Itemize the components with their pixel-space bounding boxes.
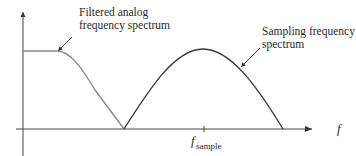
filtered-label-line1: Filtered analog (79, 6, 149, 19)
sampling-label-line2: spectrum (262, 38, 304, 51)
sampling-leader-arrow (241, 48, 260, 67)
x-axis-label: f (337, 121, 343, 136)
sampling-spectrum-curve (124, 49, 283, 129)
spectrum-diagram: Filtered analog frequency spectrum Sampl… (0, 0, 356, 156)
filtered-leader-arrow (58, 37, 72, 51)
filtered-label-line2: frequency spectrum (79, 19, 170, 32)
fsample-subscript: sample (196, 141, 222, 151)
filtered-spectrum-curve (23, 51, 124, 129)
sampling-label-line1: Sampling frequency (262, 25, 355, 38)
